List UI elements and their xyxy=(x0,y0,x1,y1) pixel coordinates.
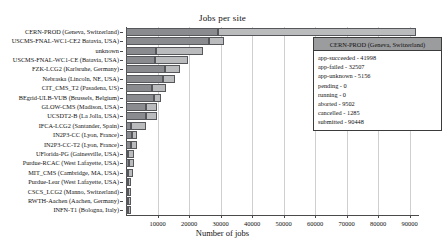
y-axis-label: UCSDT2-B (La Jolla, USA) xyxy=(47,113,119,119)
bar-segment[interactable] xyxy=(128,188,131,196)
x-axis-tick xyxy=(315,215,316,218)
y-axis-tick xyxy=(120,51,123,52)
y-axis-tick xyxy=(120,60,123,61)
jobs-per-site-chart: Jobs per site CERN-PROD (Geneva, Switzer… xyxy=(0,0,445,249)
y-axis-tick xyxy=(120,163,123,164)
y-axis-label: CSCS_LCG2 (Manno, Switzerland) xyxy=(28,188,119,194)
y-axis-label: Purdue-Lear (West Lafayette, USA) xyxy=(28,179,119,185)
bar-segment[interactable] xyxy=(126,94,154,102)
tooltip-row: app-unknown - 5156 xyxy=(314,71,441,80)
y-axis-label: IN2P3-CC-T2 (Lyon, France) xyxy=(44,141,119,147)
x-axis-tick-label: 10000 xyxy=(149,220,165,227)
bar-segment[interactable] xyxy=(152,84,166,92)
x-axis-tick xyxy=(347,215,348,218)
y-axis-label: INFN-T1 (Bologna, Italy) xyxy=(53,207,119,213)
x-axis-tick-label: 50000 xyxy=(275,220,291,227)
x-axis-tick-label: 70000 xyxy=(338,220,354,227)
y-axis-label: BEgrid-ULB-VUB (Brussels, Belgium) xyxy=(19,94,119,100)
tooltip-row: cancelled - 1285 xyxy=(314,108,441,117)
x-axis-tick-label: 20000 xyxy=(181,220,197,227)
x-axis-title: Number of jobs xyxy=(0,228,445,238)
bar-segment[interactable] xyxy=(128,197,131,205)
bar-segment[interactable] xyxy=(163,75,176,83)
chart-title: Jobs per site xyxy=(0,13,445,23)
y-axis-tick xyxy=(120,116,123,117)
gridline xyxy=(189,27,190,215)
bar-segment[interactable] xyxy=(146,103,156,111)
bar-segment[interactable] xyxy=(132,131,137,139)
bar-segment[interactable] xyxy=(126,103,146,111)
y-axis-tick xyxy=(120,107,123,108)
y-axis-label: unknown xyxy=(96,47,119,53)
x-axis-line xyxy=(126,215,420,216)
y-axis-tick xyxy=(120,126,123,127)
bar-segment[interactable] xyxy=(128,169,133,177)
x-axis-tick xyxy=(410,215,411,218)
y-axis-tick xyxy=(120,173,123,174)
tooltip-row: aborted - 9502 xyxy=(314,99,441,108)
tooltip-rows: app-succeeded - 41998app-failed - 32507a… xyxy=(314,51,441,130)
y-axis-label: Nebraska (Lincoln, NE, USA) xyxy=(43,76,119,82)
y-axis-tick xyxy=(120,135,123,136)
bar-segment[interactable] xyxy=(156,47,203,55)
y-axis-tick xyxy=(120,98,123,99)
x-axis-tick-label: 90000 xyxy=(401,220,417,227)
bar-segment[interactable] xyxy=(129,159,135,167)
gridline xyxy=(221,27,222,215)
y-axis-tick xyxy=(120,41,123,42)
bar-segment[interactable] xyxy=(126,28,218,36)
y-axis-tick xyxy=(120,145,123,146)
y-axis-tick xyxy=(120,79,123,80)
x-axis-tick-label: 60000 xyxy=(307,220,323,227)
y-axis-tick xyxy=(120,154,123,155)
x-axis-tick-label: 30000 xyxy=(212,220,228,227)
bar-segment[interactable] xyxy=(126,37,209,45)
bar-segment[interactable] xyxy=(131,122,147,130)
bar-segment[interactable] xyxy=(126,47,156,55)
bar-segment[interactable] xyxy=(154,94,161,102)
y-axis-label: IFCA-LCG2 (Santander, Spain) xyxy=(39,123,119,129)
tooltip-row: submitted - 90448 xyxy=(314,117,441,126)
bar-segment[interactable] xyxy=(126,65,165,73)
y-axis-label: Purdue-RCAC (West Lafayette, USA) xyxy=(23,160,119,166)
y-axis-label: USCMS-FNAL-WC1-CE2 Batavia, USA) xyxy=(12,38,119,44)
y-axis-tick xyxy=(120,210,123,211)
y-axis-label: USCMS-FNAL-WC1-CE (Batavia, USA) xyxy=(13,57,119,63)
tooltip-row: app-succeeded - 41998 xyxy=(314,53,441,62)
bar-segment[interactable] xyxy=(126,84,152,92)
y-axis-tick xyxy=(120,88,123,89)
bar-segment[interactable] xyxy=(218,28,416,36)
y-axis-label: CIT_CMS_T2 (Pasadena, US) xyxy=(42,85,119,91)
y-axis-label: RWTH-Aachen (Aachen, Germany) xyxy=(28,198,119,204)
x-axis-tick xyxy=(252,215,253,218)
x-axis-tick-label: 40000 xyxy=(244,220,260,227)
x-axis-tick-label: 80000 xyxy=(370,220,386,227)
tooltip-row: pending - 0 xyxy=(314,81,441,90)
bar-segment[interactable] xyxy=(209,37,224,45)
x-axis-tick xyxy=(284,215,285,218)
x-axis-tick xyxy=(221,215,222,218)
y-axis-tick xyxy=(120,32,123,33)
y-axis-tick xyxy=(120,192,123,193)
bar-segment[interactable] xyxy=(128,178,132,186)
y-axis-label: GLOW-CMS (Madison, USA) xyxy=(42,104,120,110)
bar-segment[interactable] xyxy=(126,75,163,83)
tooltip-row: running - 0 xyxy=(314,90,441,99)
bar-segment[interactable] xyxy=(126,112,146,120)
bar-segment[interactable] xyxy=(131,141,137,149)
bar-segment[interactable] xyxy=(126,56,155,64)
y-axis-label: CERN-PROD (Geneva, Switzerland) xyxy=(25,29,119,35)
x-axis-tick xyxy=(378,215,379,218)
bar-segment[interactable] xyxy=(128,150,134,158)
y-axis-tick xyxy=(120,182,123,183)
bar-segment[interactable] xyxy=(146,112,157,120)
tooltip-row: app-failed - 32507 xyxy=(314,62,441,71)
y-axis-tick xyxy=(120,201,123,202)
y-axis-label: FZK-LCG2 (Karlsruhe, Germany) xyxy=(32,66,119,72)
gridline xyxy=(284,27,285,215)
bar-segment[interactable] xyxy=(155,56,188,64)
y-axis-label: UFlorida-PG (Gainesville, USA) xyxy=(36,151,119,157)
x-axis-tick xyxy=(158,215,159,218)
bar-segment[interactable] xyxy=(165,65,180,73)
bar-segment[interactable] xyxy=(128,206,131,214)
